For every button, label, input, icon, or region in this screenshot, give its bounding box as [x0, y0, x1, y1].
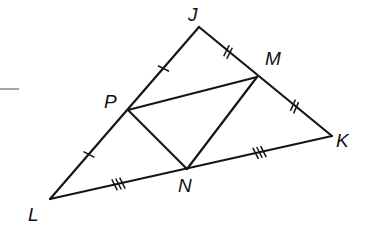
label-L: L [28, 204, 39, 225]
label-P: P [104, 91, 117, 112]
label-K: K [336, 130, 350, 151]
midsegment-NP [128, 110, 187, 169]
side-JK [199, 27, 332, 136]
segments [50, 27, 332, 199]
side-LJ [50, 27, 199, 199]
triangle-diagram: JMKPNL [0, 0, 374, 234]
label-M: M [265, 48, 281, 69]
tick-LN [112, 178, 125, 191]
label-N: N [178, 175, 192, 196]
midsegment-PM [128, 77, 257, 110]
tick-NK [253, 146, 266, 159]
label-J: J [187, 4, 198, 25]
